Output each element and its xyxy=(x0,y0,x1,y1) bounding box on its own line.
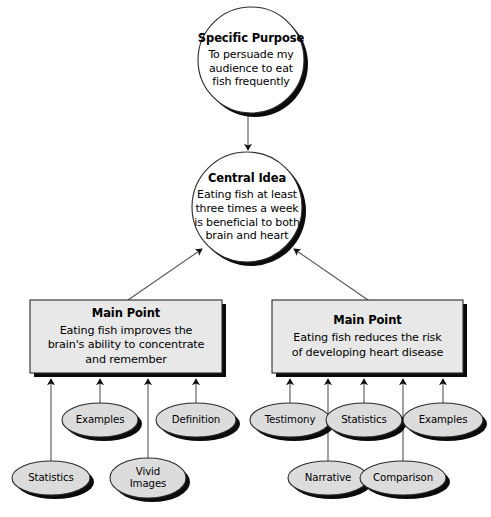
support-ellipse-testimony xyxy=(250,403,330,437)
connector-left-main-point-to-central-idea xyxy=(128,249,202,300)
central-idea-circle xyxy=(192,152,302,262)
specific-purpose-circle xyxy=(198,7,304,113)
connector-right-main-point-to-central-idea xyxy=(294,249,368,300)
support-ellipse-definition xyxy=(156,403,236,437)
diagram-canvas xyxy=(0,0,491,517)
node-shape-group xyxy=(12,7,483,498)
main-point-right-box xyxy=(272,300,463,373)
main-point-left-box xyxy=(30,300,222,373)
support-ellipse-examples-right xyxy=(403,403,483,437)
support-ellipse-narrative xyxy=(288,461,368,495)
speech-outline-diagram: Specific Purpose To persuade my audience… xyxy=(0,0,491,517)
support-ellipse-vivid-images xyxy=(110,458,186,498)
support-ellipse-statistics-left xyxy=(12,461,90,495)
support-ellipse-statistics-right xyxy=(326,403,402,437)
support-ellipse-comparison xyxy=(360,461,446,495)
support-ellipse-examples-left xyxy=(62,403,138,437)
